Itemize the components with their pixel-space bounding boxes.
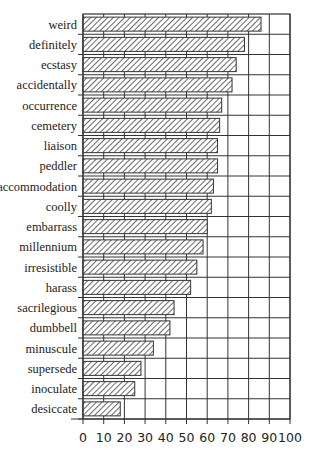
bar-irresistible: [83, 260, 197, 274]
bar-inoculate: [83, 382, 135, 396]
bar-supersede: [83, 361, 141, 375]
category-label: embarrass: [26, 220, 77, 234]
category-label: sacrilegious: [17, 301, 77, 315]
x-tick-label: 20: [116, 430, 132, 445]
category-label: accommodation: [0, 180, 78, 194]
bar-peddler: [83, 159, 218, 173]
category-label: minuscule: [26, 342, 78, 356]
bar-occurrence: [83, 98, 222, 112]
category-label: coolly: [46, 200, 78, 214]
x-tick-label: 90: [261, 430, 277, 445]
bar-liaison: [83, 139, 218, 153]
category-label: peddler: [40, 159, 78, 173]
category-label: weird: [49, 18, 78, 32]
category-label: supersede: [28, 362, 78, 376]
x-tick-label: 100: [278, 430, 302, 445]
bar-millennium: [83, 240, 203, 254]
category-label: millennium: [19, 240, 77, 254]
category-label: definitely: [29, 38, 78, 52]
bar-ecstasy: [83, 58, 236, 72]
bar-accommodation: [83, 179, 213, 193]
x-tick-label: 70: [220, 430, 236, 445]
bar-desiccate: [83, 402, 120, 416]
category-label: harass: [46, 281, 77, 295]
bar-minuscule: [83, 341, 153, 355]
category-label: occurrence: [22, 99, 77, 113]
category-label: inoculate: [31, 382, 77, 396]
bar-coolly: [83, 199, 211, 213]
category-label: cemetery: [31, 119, 78, 133]
x-tick-label: 50: [179, 430, 195, 445]
x-tick-label: 10: [96, 430, 112, 445]
x-tick-label: 0: [79, 430, 87, 445]
bar-dumbbell: [83, 321, 170, 335]
horizontal-bar-chart: 0102030405060708090100weirddefinitelyecs…: [0, 0, 320, 456]
plot-area: 0102030405060708090100weirddefinitelyecs…: [0, 14, 302, 445]
x-tick-label: 60: [199, 430, 215, 445]
x-tick-label: 40: [158, 430, 174, 445]
bar-sacrilegious: [83, 301, 174, 315]
bar-harass: [83, 280, 191, 294]
bar-definitely: [83, 37, 244, 51]
bar-embarrass: [83, 220, 207, 234]
category-label: irresistible: [24, 261, 77, 275]
category-label: accidentally: [17, 78, 78, 92]
category-label: desiccate: [31, 402, 77, 416]
bar-weird: [83, 17, 261, 31]
category-label: ecstasy: [41, 58, 78, 72]
category-label: liaison: [44, 139, 78, 153]
bar-accidentally: [83, 78, 232, 92]
bar-cemetery: [83, 118, 220, 132]
category-label: dumbbell: [30, 321, 78, 335]
x-tick-label: 30: [137, 430, 153, 445]
x-tick-label: 80: [241, 430, 257, 445]
